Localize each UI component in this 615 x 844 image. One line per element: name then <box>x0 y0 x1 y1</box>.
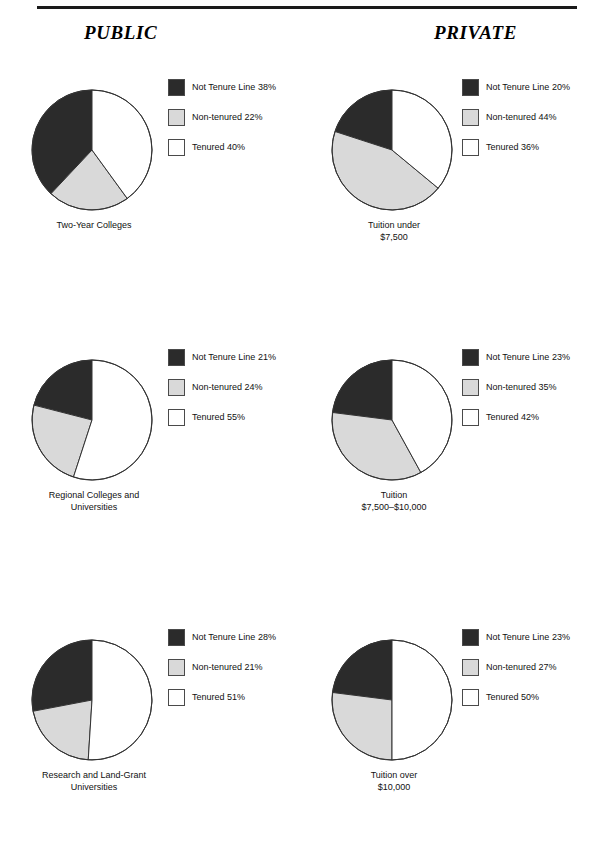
legend-label: Not Tenure Line 38% <box>192 82 276 92</box>
legend-swatch-icon <box>462 629 479 646</box>
legend-swatch-icon <box>168 139 185 156</box>
legend-label: Not Tenure Line 28% <box>192 632 276 642</box>
legend-item[interactable]: Tenured 50% <box>462 682 602 712</box>
pie-slice-4-2[interactable] <box>88 640 152 760</box>
caption-line: Universities <box>8 502 180 514</box>
legend-label: Tenured 55% <box>192 412 245 422</box>
legend-swatch-icon <box>168 379 185 396</box>
pie-svg-4 <box>30 638 154 762</box>
legend-swatch-icon <box>168 689 185 706</box>
legend-0: Not Tenure Line 38%Non-tenured 22%Tenure… <box>168 72 308 162</box>
caption-line: Research and Land-Grant <box>8 770 180 782</box>
pie-svg-0 <box>30 88 154 212</box>
legend-item[interactable]: Not Tenure Line 21% <box>168 342 308 372</box>
legend-item[interactable]: Tenured 40% <box>168 132 308 162</box>
caption-line: Universities <box>8 782 180 794</box>
legend-item[interactable]: Not Tenure Line 23% <box>462 622 602 652</box>
legend-swatch-icon <box>168 79 185 96</box>
legend-item[interactable]: Not Tenure Line 28% <box>168 622 308 652</box>
legend-4: Not Tenure Line 28%Non-tenured 21%Tenure… <box>168 622 308 712</box>
caption-line: $7,500 <box>308 232 480 244</box>
legend-item[interactable]: Non-tenured 24% <box>168 372 308 402</box>
legend-label: Non-tenured 35% <box>486 382 557 392</box>
pie-slice-3-0[interactable] <box>332 360 392 420</box>
legend-swatch-icon <box>168 349 185 366</box>
legend-item[interactable]: Tenured 55% <box>168 402 308 432</box>
legend-label: Tenured 51% <box>192 692 245 702</box>
legend-label: Non-tenured 44% <box>486 112 557 122</box>
pie-caption-5: Tuition over$10,000 <box>308 770 480 793</box>
pie-caption-0: Two-Year Colleges <box>8 220 180 232</box>
legend-label: Not Tenure Line 20% <box>486 82 570 92</box>
legend-swatch-icon <box>168 659 185 676</box>
pie-chart-3 <box>330 358 454 482</box>
pie-chart-4 <box>30 638 154 762</box>
caption-line: $10,000 <box>308 782 480 794</box>
pie-chart-2 <box>30 358 154 482</box>
legend-2: Not Tenure Line 21%Non-tenured 24%Tenure… <box>168 342 308 432</box>
legend-3: Not Tenure Line 23%Non-tenured 35%Tenure… <box>462 342 602 432</box>
header-rule <box>37 6 577 9</box>
legend-label: Non-tenured 27% <box>486 662 557 672</box>
legend-item[interactable]: Non-tenured 22% <box>168 102 308 132</box>
pie-svg-2 <box>30 358 154 482</box>
caption-line: $7,500–$10,000 <box>308 502 480 514</box>
pie-svg-5 <box>330 638 454 762</box>
legend-swatch-icon <box>462 349 479 366</box>
pie-svg-1 <box>330 88 454 212</box>
caption-line: Tuition <box>308 490 480 502</box>
legend-label: Tenured 50% <box>486 692 539 702</box>
legend-label: Tenured 42% <box>486 412 539 422</box>
legend-5: Not Tenure Line 23%Non-tenured 27%Tenure… <box>462 622 602 712</box>
legend-item[interactable]: Not Tenure Line 38% <box>168 72 308 102</box>
legend-label: Non-tenured 24% <box>192 382 263 392</box>
legend-item[interactable]: Tenured 51% <box>168 682 308 712</box>
pie-slice-5-1[interactable] <box>332 692 392 760</box>
legend-swatch-icon <box>168 409 185 426</box>
legend-swatch-icon <box>168 629 185 646</box>
legend-swatch-icon <box>462 659 479 676</box>
legend-item[interactable]: Non-tenured 27% <box>462 652 602 682</box>
caption-line: Two-Year Colleges <box>8 220 180 232</box>
page-root: PUBLIC PRIVATE Two-Year Colleges Not Ten… <box>0 0 615 844</box>
legend-item[interactable]: Tenured 42% <box>462 402 602 432</box>
legend-swatch-icon <box>462 139 479 156</box>
caption-line: Tuition under <box>308 220 480 232</box>
pie-chart-5 <box>330 638 454 762</box>
column-heading-private: PRIVATE <box>434 22 517 44</box>
legend-item[interactable]: Not Tenure Line 20% <box>462 72 602 102</box>
pie-slice-4-0[interactable] <box>32 640 92 711</box>
legend-label: Non-tenured 22% <box>192 112 263 122</box>
pie-chart-1 <box>330 88 454 212</box>
legend-swatch-icon <box>462 109 479 126</box>
legend-item[interactable]: Non-tenured 21% <box>168 652 308 682</box>
legend-swatch-icon <box>462 409 479 426</box>
legend-1: Not Tenure Line 20%Non-tenured 44%Tenure… <box>462 72 602 162</box>
pie-slice-5-0[interactable] <box>332 640 392 700</box>
pie-caption-3: Tuition$7,500–$10,000 <box>308 490 480 513</box>
legend-label: Not Tenure Line 23% <box>486 632 570 642</box>
legend-swatch-icon <box>462 79 479 96</box>
legend-item[interactable]: Tenured 36% <box>462 132 602 162</box>
legend-item[interactable]: Non-tenured 44% <box>462 102 602 132</box>
legend-item[interactable]: Non-tenured 35% <box>462 372 602 402</box>
legend-swatch-icon <box>462 689 479 706</box>
legend-item[interactable]: Not Tenure Line 23% <box>462 342 602 372</box>
legend-label: Not Tenure Line 23% <box>486 352 570 362</box>
pie-slice-5-2[interactable] <box>392 640 452 760</box>
caption-line: Tuition over <box>308 770 480 782</box>
legend-label: Not Tenure Line 21% <box>192 352 276 362</box>
legend-swatch-icon <box>168 109 185 126</box>
pie-caption-4: Research and Land-GrantUniversities <box>8 770 180 793</box>
legend-label: Non-tenured 21% <box>192 662 263 672</box>
pie-caption-1: Tuition under$7,500 <box>308 220 480 243</box>
column-heading-public: PUBLIC <box>84 22 157 44</box>
legend-label: Tenured 40% <box>192 142 245 152</box>
pie-svg-3 <box>330 358 454 482</box>
pie-chart-0 <box>30 88 154 212</box>
legend-swatch-icon <box>462 379 479 396</box>
legend-label: Tenured 36% <box>486 142 539 152</box>
caption-line: Regional Colleges and <box>8 490 180 502</box>
pie-caption-2: Regional Colleges andUniversities <box>8 490 180 513</box>
